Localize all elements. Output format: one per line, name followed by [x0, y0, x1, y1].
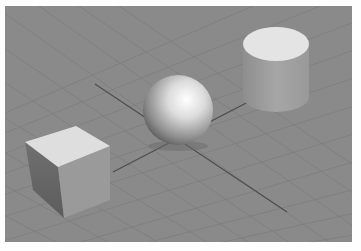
3d-viewport[interactable] — [5, 6, 352, 242]
cylinder-object[interactable] — [243, 27, 309, 112]
